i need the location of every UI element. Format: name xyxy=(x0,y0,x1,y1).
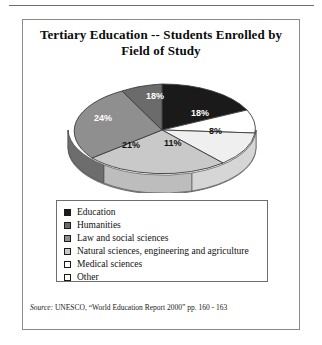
legend-label: Humanities xyxy=(77,220,121,231)
slice-label-humanities: 8% xyxy=(209,126,222,136)
page-top-rule xyxy=(9,5,314,6)
source-note-prefix: Source: xyxy=(30,303,53,312)
chart-title-line-2: Field of Study xyxy=(26,43,296,59)
slice-label-medical: 24% xyxy=(94,113,112,123)
slice-label-other: 18% xyxy=(146,91,164,101)
slice-label-natural-sciences: 21% xyxy=(122,140,140,150)
legend-swatch-icon xyxy=(64,209,71,216)
legend-item-other: Other xyxy=(64,271,267,283)
legend-item-natural-sciences: Natural sciences, engineering and agricu… xyxy=(64,245,267,257)
legend-swatch-icon xyxy=(64,274,71,281)
pie-top-face xyxy=(74,84,255,174)
legend-label: Education xyxy=(77,207,116,218)
figure-root: Tertiary Education -- Students Enrolled … xyxy=(0,0,322,345)
legend-label: Natural sciences, engineering and agricu… xyxy=(77,246,249,257)
legend-swatch-icon xyxy=(64,222,71,229)
legend-label: Medical sciences xyxy=(77,259,142,270)
legend-label: Law and social sciences xyxy=(77,233,169,244)
legend-item-law-and-social-sciences: Law and social sciences xyxy=(64,232,267,244)
pie-chart: 18% 18% 8% 11% 21% 24% xyxy=(60,78,265,193)
legend-item-humanities: Humanities xyxy=(64,219,267,231)
slice-label-law: 11% xyxy=(164,138,182,148)
legend-swatch-icon xyxy=(64,248,71,255)
legend-item-medical-sciences: Medical sciences xyxy=(64,258,267,270)
legend-swatch-icon xyxy=(64,235,71,242)
chart-legend: Education Humanities Law and social scie… xyxy=(56,200,268,282)
source-note-text: UNESCO, “World Education Report 2000” pp… xyxy=(55,303,227,312)
legend-item-education: Education xyxy=(64,206,267,218)
slice-label-education: 18% xyxy=(191,108,209,118)
chart-title: Tertiary Education -- Students Enrolled … xyxy=(26,27,296,59)
legend-label: Other xyxy=(77,272,99,283)
chart-title-line-1: Tertiary Education -- Students Enrolled … xyxy=(26,27,296,43)
legend-swatch-icon xyxy=(64,261,71,268)
source-note: Source: UNESCO, “World Education Report … xyxy=(30,303,227,312)
